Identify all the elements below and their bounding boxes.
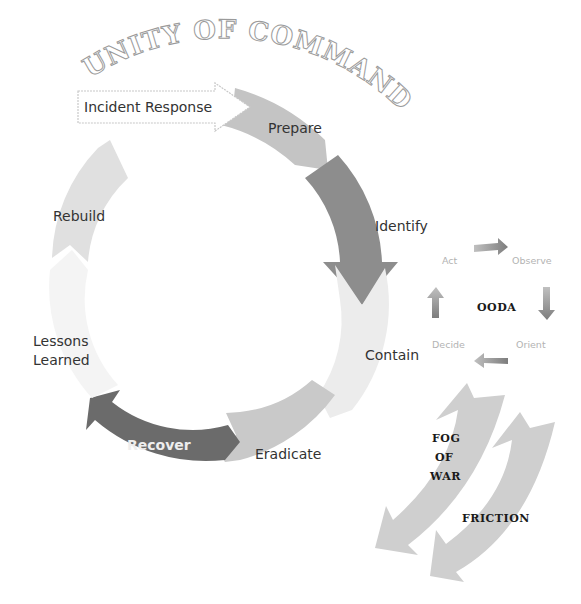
diagram-canvas: UNITY OF COMMAND Incident Response Prepa… [0, 0, 581, 604]
ooda-label-observe: Observe [512, 255, 552, 266]
step-label-eradicate: Eradicate [255, 446, 321, 462]
step-label-lessons-line2: Learned [33, 352, 90, 368]
step-label-recover: Recover [127, 437, 191, 453]
step-label-identify: Identify [375, 218, 428, 234]
ooda-label-orient: Orient [516, 339, 546, 350]
ooda-label-decide: Decide [432, 339, 465, 350]
fog-of-war-line2: OF [435, 451, 453, 464]
ooda-label-act: Act [442, 255, 457, 266]
step-label-lessons-line1: Lessons [33, 333, 89, 349]
cycle-segment-rebuild[interactable] [52, 140, 128, 262]
cycle-segment-lessons-learned[interactable] [49, 250, 118, 398]
step-label-rebuild: Rebuild [53, 208, 105, 224]
ooda-arrow-act-to-observe[interactable] [474, 238, 508, 255]
friction-label: FRICTION [462, 512, 530, 525]
incident-response-label: Incident Response [84, 99, 212, 115]
fog-of-war-line3: WAR [430, 470, 461, 483]
ooda-arrow-decide-to-act[interactable] [427, 287, 444, 318]
step-label-prepare: Prepare [268, 120, 322, 136]
ooda-center-label: OODA [477, 301, 516, 314]
ooda-arrow-orient-to-decide[interactable] [474, 353, 508, 368]
ooda-arrow-observe-to-orient[interactable] [538, 287, 555, 320]
fog-of-war-line1: FOG [432, 432, 460, 445]
step-label-contain: Contain [365, 347, 419, 363]
